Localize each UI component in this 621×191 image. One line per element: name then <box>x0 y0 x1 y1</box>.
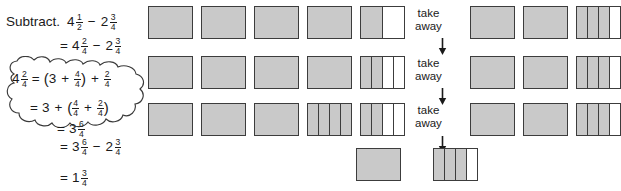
box-part-shaded <box>577 57 587 88</box>
partitioned-box <box>360 56 405 89</box>
fraction-denominator: 4 <box>74 79 81 89</box>
equals-sign: = <box>57 122 65 136</box>
box-part-shaded <box>598 57 609 88</box>
box-part-empty <box>609 7 620 38</box>
box-part-shaded <box>371 104 382 135</box>
fraction: 3 4 <box>110 13 117 32</box>
fraction: 6 4 <box>81 138 88 157</box>
fraction-numerator: 2 <box>97 99 104 108</box>
equals-sign: = <box>60 39 68 53</box>
addend-three: 3 <box>42 101 50 115</box>
down-arrow-icon <box>436 38 449 55</box>
whole-box <box>470 6 515 39</box>
take-away-word-away: away <box>415 117 442 130</box>
cloud-equation-line-3: = 3 6 4 <box>53 119 85 138</box>
fraction-denominator: 4 <box>115 46 122 56</box>
whole-box <box>254 103 299 136</box>
take-away-word-take: take <box>415 57 442 70</box>
box-part-empty <box>393 57 404 88</box>
fraction-numerator: 4 <box>74 70 81 79</box>
subtract-label: Subtract. <box>6 15 60 29</box>
box-part-shaded <box>340 104 351 135</box>
take-away-word-take: take <box>415 7 442 20</box>
partitioned-box <box>307 103 352 136</box>
partitioned-box <box>576 103 621 136</box>
plus-operator: + <box>61 72 69 86</box>
close-paren: ) <box>81 71 86 86</box>
fraction: 3 4 <box>115 37 122 56</box>
fraction-denominator: 4 <box>110 22 117 32</box>
fraction-numerator: 2 <box>81 37 88 46</box>
fraction-numerator: 6 <box>78 120 85 129</box>
take-away-word-take: take <box>415 104 442 117</box>
box-part-empty <box>382 57 393 88</box>
plus-operator: + <box>91 72 99 86</box>
mixed-whole: 2 <box>106 140 114 154</box>
whole-box <box>470 103 515 136</box>
fraction-numerator: 3 <box>115 138 122 147</box>
partitioned-box <box>360 103 405 136</box>
whole-box <box>307 56 352 89</box>
equation-line-4-answer: = 1 3 4 <box>56 168 88 187</box>
equation-line-2: = 4 2 4 − 2 3 4 <box>56 36 121 55</box>
minus-operator: − <box>93 39 101 53</box>
fraction-denominator: 2 <box>76 22 83 32</box>
plus-operator: + <box>84 101 92 115</box>
whole-box <box>148 6 193 39</box>
box-part-shaded <box>587 57 598 88</box>
fraction-numerator: 3 <box>110 13 117 22</box>
mixed-whole: 4 <box>67 15 75 29</box>
mixed-whole: 2 <box>106 39 114 53</box>
box-part-empty <box>393 104 404 135</box>
mixed-whole: 2 <box>101 15 109 29</box>
fraction-denominator: 4 <box>21 79 28 89</box>
take-away-label-3: take away <box>415 104 442 130</box>
whole-box <box>201 56 246 89</box>
box-part-shaded <box>371 57 382 88</box>
mixed-whole: 3 <box>69 122 77 136</box>
minus-operator: − <box>93 140 101 154</box>
mixed-whole: 1 <box>72 171 80 185</box>
plus-operator: + <box>54 101 62 115</box>
whole-box <box>148 103 193 136</box>
cloud-equation-line-1: 4 2 4 = ( 3 + 4 4 ) + 2 4 <box>12 69 111 88</box>
fraction-numerator: 3 <box>81 169 88 178</box>
box-part-shaded <box>318 104 329 135</box>
box-part-shaded <box>577 104 587 135</box>
fraction-numerator: 6 <box>81 138 88 147</box>
whole-box <box>356 148 401 181</box>
whole-box <box>523 56 568 89</box>
fraction: 6 4 <box>78 120 85 139</box>
partitioned-box <box>576 6 621 39</box>
equals-sign: = <box>60 171 68 185</box>
take-away-word-away: away <box>415 70 442 83</box>
fraction-numerator: 2 <box>21 70 28 79</box>
equation-line-1: Subtract. 4 1 2 − 2 3 4 <box>6 12 117 31</box>
fraction: 2 4 <box>21 70 28 89</box>
fraction-numerator: 2 <box>104 70 111 79</box>
fraction-numerator: 1 <box>76 13 83 22</box>
box-part-shaded <box>361 7 382 38</box>
box-part-shaded <box>444 149 455 180</box>
fraction: 4 4 <box>72 99 79 118</box>
fraction-denominator: 4 <box>104 79 111 89</box>
equals-sign: = <box>60 140 68 154</box>
addend-three: 3 <box>49 72 57 86</box>
box-part-shaded <box>587 104 598 135</box>
box-part-shaded <box>455 149 466 180</box>
fraction-denominator: 4 <box>81 147 88 157</box>
fraction-denominator: 4 <box>115 147 122 157</box>
mixed-whole: 4 <box>12 72 20 86</box>
fraction: 2 4 <box>81 37 88 56</box>
equation-line-3: = 3 6 4 − 2 3 4 <box>56 137 121 156</box>
mixed-whole: 3 <box>72 140 80 154</box>
box-part-shaded <box>361 57 371 88</box>
whole-box <box>201 103 246 136</box>
box-part-shaded <box>577 7 587 38</box>
cloud-equation-line-2: = 3 + ( 4 4 + 2 4 ) <box>26 98 109 117</box>
fraction: 4 4 <box>74 70 81 89</box>
fraction-denominator: 4 <box>81 178 88 188</box>
equals-sign: = <box>30 101 38 115</box>
whole-box <box>254 6 299 39</box>
fraction-numerator: 3 <box>115 37 122 46</box>
